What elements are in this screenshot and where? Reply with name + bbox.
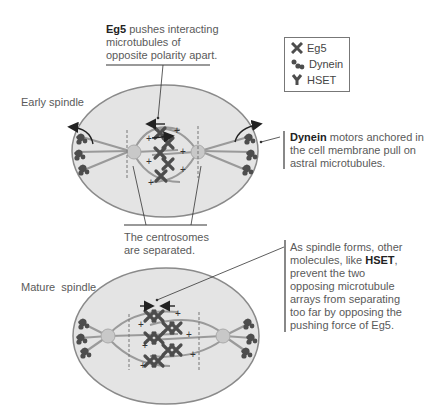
plus-end-marker: + [180, 146, 186, 157]
legend-item-hset: HSET [291, 74, 336, 86]
plus-end-marker: + [186, 329, 192, 340]
mature-spindle-cell: ++ ++ ++ [73, 268, 259, 404]
early-spindle-cell: ++ ++ ++ [70, 85, 260, 217]
legend: Eg5 Dynein HSET [284, 37, 350, 92]
hset-annotation-bar [284, 240, 286, 332]
plus-end-marker: + [190, 349, 196, 360]
spindle-diagram: ++ ++ ++ [0, 0, 436, 416]
plus-end-marker: + [138, 319, 144, 330]
hset-annotation: As spindle forms, other molecules, like … [290, 241, 403, 332]
centrosome-left [101, 329, 115, 343]
plus-end-marker: + [174, 125, 180, 136]
eg5-motor-icon [291, 42, 303, 54]
plus-end-marker: + [146, 133, 152, 144]
plus-end-marker: + [142, 340, 148, 351]
dynein-annotation-bar [283, 131, 285, 169]
dynein-motor-icon [291, 58, 305, 70]
mature-spindle-label: Mature spindle [21, 281, 96, 294]
hset-motor-icon [291, 74, 303, 86]
legend-item-eg5: Eg5 [291, 42, 327, 54]
plus-end-marker: + [140, 360, 146, 371]
plus-end-marker: + [146, 156, 152, 167]
early-spindle-label: Early spindle [21, 96, 84, 109]
legend-item-dynein: Dynein [291, 58, 343, 70]
dynein-annotation: Dynein motors anchored in the cell membr… [290, 131, 424, 170]
centrosomes-annotation: The centrosomes are separated. [124, 231, 209, 257]
centrosome-right [216, 329, 230, 343]
plus-end-marker: + [148, 177, 154, 188]
plus-end-marker: + [175, 308, 181, 319]
centrosome-left [127, 145, 141, 159]
plus-end-marker: + [180, 164, 186, 175]
eg5-annotation: Eg5 pushes interacting microtubules of o… [106, 23, 219, 62]
